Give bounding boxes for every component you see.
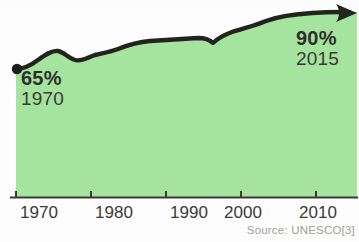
literacy-rate-area-chart: 65% 1970 90% 2015 1970 1980 1990 2000 20… <box>0 0 359 242</box>
annotation-end: 90% 2015 <box>296 28 339 69</box>
x-tick-label-2010: 2010 <box>299 203 337 223</box>
x-tick-label-1980: 1980 <box>95 203 133 223</box>
annotation-start: 65% 1970 <box>21 68 64 109</box>
x-tick-label-2000: 2000 <box>224 203 262 223</box>
x-tick-label-1970: 1970 <box>20 203 58 223</box>
annotation-end-year: 2015 <box>296 49 339 69</box>
annotation-start-value: 65% <box>21 68 64 89</box>
annotation-start-year: 1970 <box>21 89 64 109</box>
annotation-end-value: 90% <box>296 28 339 49</box>
x-tick-label-1990: 1990 <box>170 203 208 223</box>
source-note: Source: UNESCO[3] <box>247 224 355 236</box>
